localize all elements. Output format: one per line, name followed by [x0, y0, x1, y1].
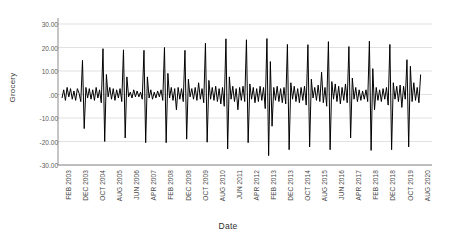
- data-series-line: [62, 39, 421, 156]
- x-tick-label: DEC 2008: [185, 170, 192, 201]
- x-tick-label: OCT 2009: [202, 170, 209, 201]
- x-tick-label: FEB 2013: [270, 170, 277, 200]
- chart-container: Grocery 30.0020.0010.00.00-10.00-20.00-3…: [0, 0, 456, 242]
- x-tick-label: OCT 2019: [407, 170, 414, 201]
- x-tick-label: AUG 2020: [424, 170, 431, 201]
- x-tick-label: FEB 2003: [65, 170, 72, 200]
- x-tick-label: DEC 2018: [389, 170, 396, 201]
- x-tick-label: OCT 2004: [99, 170, 106, 201]
- x-tick-label: DEC 2013: [287, 170, 294, 201]
- x-tick-label: DEC 2003: [82, 170, 89, 201]
- x-tick-label: AUG 2015: [321, 170, 328, 201]
- x-tick-label: OCT 2014: [304, 170, 311, 201]
- x-axis-tick-labels: FEB 2003DEC 2003OCT 2004AUG 2005JUN 2006…: [0, 170, 456, 220]
- x-tick-label: AUG 2010: [219, 170, 226, 201]
- x-tick-label: FEB 2018: [372, 170, 379, 200]
- x-tick-label: JUN 2011: [236, 170, 243, 199]
- x-tick-label: FEB 2008: [167, 170, 174, 200]
- x-tick-label: AUG 2005: [116, 170, 123, 201]
- x-tick-label: APR 2017: [355, 170, 362, 200]
- x-tick-label: APR 2007: [150, 170, 157, 200]
- x-tick-label: JUN 2006: [133, 170, 140, 200]
- x-tick-label: JUN 2016: [338, 170, 345, 200]
- x-axis-title: Date: [0, 221, 456, 231]
- x-tick-label: APR 2012: [253, 170, 260, 200]
